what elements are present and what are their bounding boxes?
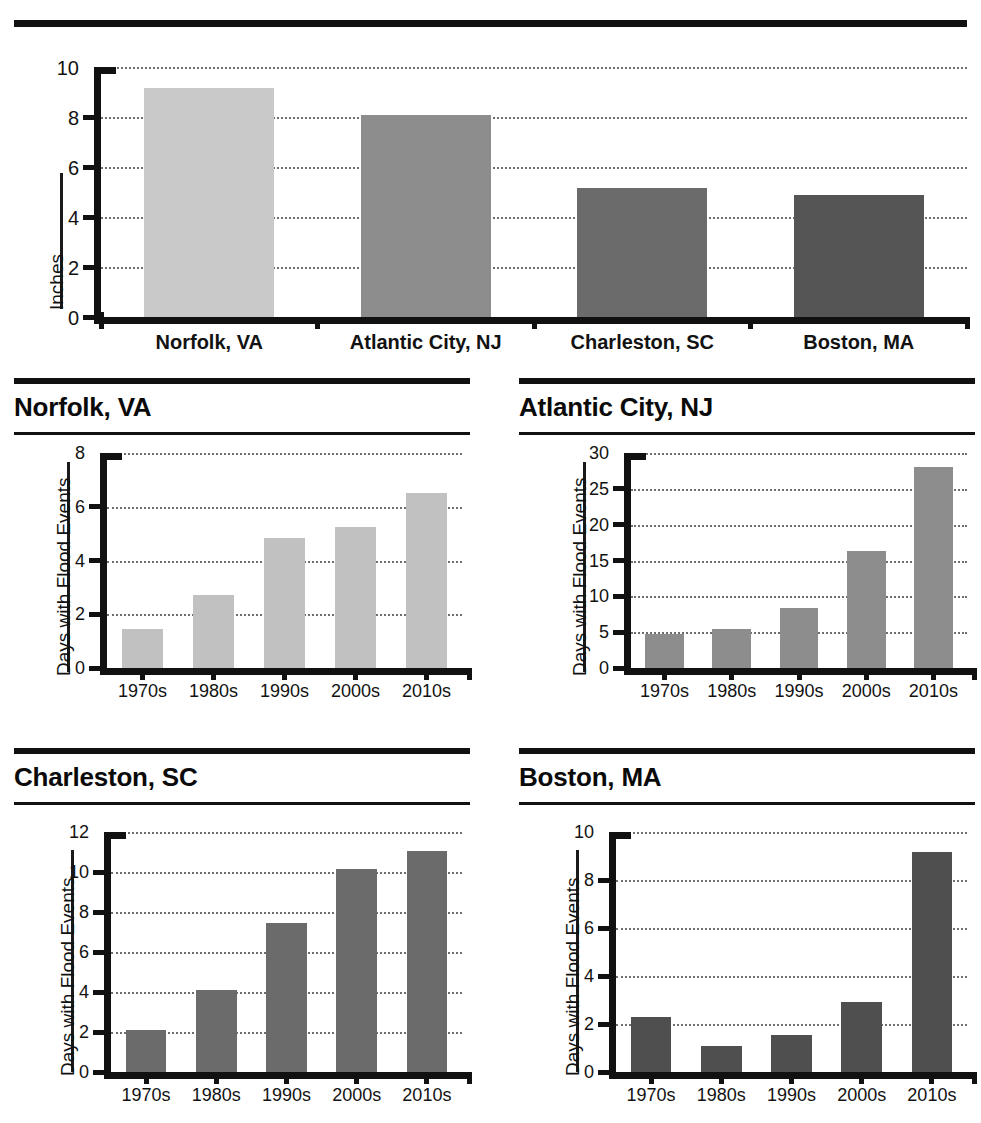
y-axis-tick-label: 4 bbox=[560, 967, 594, 985]
bar bbox=[577, 188, 707, 317]
y-axis-tick-label: 8 bbox=[55, 903, 89, 921]
x-axis-tick bbox=[929, 1072, 934, 1084]
norfolk-bar-chart: Days with Flood Events 024681970s1980s19… bbox=[14, 440, 474, 723]
y-axis-spine bbox=[94, 67, 101, 324]
x-axis-tick bbox=[797, 668, 802, 680]
x-axis-category-label: 1990s bbox=[251, 1086, 321, 1104]
x-axis-tick bbox=[864, 668, 869, 680]
x-axis-tick bbox=[748, 317, 753, 329]
y-axis-tick-label: 20 bbox=[575, 516, 609, 534]
panel-rule-bottom bbox=[14, 802, 470, 805]
x-axis-category-label: 2010s bbox=[391, 682, 462, 700]
y-axis-tick bbox=[93, 1030, 106, 1035]
y-axis-top-cap bbox=[100, 453, 122, 460]
y-axis-tick-label: 8 bbox=[51, 444, 85, 462]
charleston-plot-area bbox=[111, 832, 462, 1072]
panel-boston: Boston, MA Days with Flood Events 024681… bbox=[519, 748, 979, 1116]
x-axis-category-label: 2000s bbox=[827, 1086, 897, 1104]
y-axis-top-cap bbox=[609, 832, 631, 839]
y-axis-tick bbox=[598, 878, 611, 883]
panel-rule-top bbox=[519, 748, 975, 754]
y-axis-tick-label: 12 bbox=[55, 823, 89, 841]
y-axis-tick-label: 0 bbox=[560, 1063, 594, 1081]
x-axis-tick bbox=[214, 1072, 219, 1084]
y-axis-tick-label: 10 bbox=[560, 823, 594, 841]
x-axis-category-label: 1990s bbox=[756, 1086, 826, 1104]
x-axis-category-label: 2000s bbox=[322, 1086, 392, 1104]
y-axis-tick-label: 25 bbox=[575, 480, 609, 498]
x-axis-category-label: Boston, MA bbox=[751, 332, 968, 352]
y-axis-tick-label: 10 bbox=[575, 587, 609, 605]
atlantic-bars bbox=[631, 453, 967, 668]
y-axis-tick bbox=[613, 522, 626, 527]
y-axis-tick-label: 6 bbox=[560, 919, 594, 937]
charleston-bars bbox=[111, 832, 462, 1072]
bar bbox=[847, 551, 886, 668]
panel-title-atlantic-city: Atlantic City, NJ bbox=[519, 392, 713, 423]
panel-rule-top bbox=[14, 748, 470, 754]
atlantic-y-axis-title: Days with Flood Events bbox=[569, 477, 591, 676]
y-axis-tick bbox=[598, 926, 611, 931]
x-axis-category-label: 1990s bbox=[765, 682, 832, 700]
summary-bar-chart: Inches 0246810Norfolk, VAAtlantic City, … bbox=[0, 48, 981, 348]
figure-page: Inches 0246810Norfolk, VAAtlantic City, … bbox=[0, 0, 981, 1123]
y-axis-top-cap bbox=[624, 453, 646, 460]
panel-title-charleston: Charleston, SC bbox=[14, 762, 198, 793]
bar bbox=[771, 1035, 812, 1072]
y-axis-tick-label: 6 bbox=[51, 498, 85, 516]
bar bbox=[631, 1017, 672, 1072]
y-axis-tick bbox=[93, 990, 106, 995]
x-axis-category-label: 1980s bbox=[181, 1086, 251, 1104]
y-axis-tick bbox=[89, 504, 102, 509]
x-axis-tick bbox=[140, 668, 145, 680]
y-axis-tick-label: 30 bbox=[575, 444, 609, 462]
bar bbox=[912, 852, 953, 1072]
norfolk-plot-area bbox=[107, 453, 462, 668]
x-axis-category-label: 2010s bbox=[897, 1086, 967, 1104]
x-axis-tick bbox=[532, 317, 537, 329]
atlantic-bar-chart: Days with Flood Events 0510152025301970s… bbox=[519, 440, 979, 723]
x-axis-category-label: 2010s bbox=[900, 682, 967, 700]
x-axis-tick bbox=[353, 668, 358, 680]
y-axis-top-cap bbox=[104, 832, 126, 839]
y-axis-tick-label: 15 bbox=[575, 552, 609, 570]
y-axis-tick bbox=[613, 630, 626, 635]
y-axis-tick-label: 0 bbox=[51, 659, 85, 677]
x-axis-category-label: Charleston, SC bbox=[534, 332, 751, 352]
bar bbox=[335, 527, 376, 668]
panel-rule-bottom bbox=[519, 432, 975, 435]
bar bbox=[196, 990, 237, 1072]
y-axis-tick-label: 2 bbox=[55, 1023, 89, 1041]
boston-bars bbox=[616, 832, 967, 1072]
y-axis-top-cap bbox=[94, 67, 116, 74]
y-axis-tick bbox=[598, 974, 611, 979]
panel-rule-bottom bbox=[519, 802, 975, 805]
y-axis-tick-label: 0 bbox=[55, 1063, 89, 1081]
bar bbox=[361, 115, 491, 318]
y-axis-tick-label: 2 bbox=[560, 1015, 594, 1033]
x-axis-tick bbox=[354, 1072, 359, 1084]
x-axis-tick bbox=[424, 668, 429, 680]
y-axis-tick bbox=[83, 215, 96, 220]
y-axis-tick bbox=[613, 486, 626, 491]
x-axis-tick bbox=[789, 1072, 794, 1084]
x-axis-end-tick bbox=[467, 668, 472, 680]
bar bbox=[122, 629, 163, 668]
y-axis-tick-label: 6 bbox=[41, 158, 79, 178]
x-axis-category-label: 1970s bbox=[107, 682, 178, 700]
panel-rule-top bbox=[519, 378, 975, 384]
x-axis-category-label: 2000s bbox=[320, 682, 391, 700]
panel-title-norfolk: Norfolk, VA bbox=[14, 392, 151, 423]
panel-rule-bottom bbox=[14, 432, 470, 435]
y-axis-tick bbox=[83, 265, 96, 270]
x-axis-line bbox=[94, 317, 967, 324]
y-axis-tick bbox=[93, 910, 106, 915]
x-axis-end-tick bbox=[972, 668, 977, 680]
y-axis-tick bbox=[83, 165, 96, 170]
bar bbox=[193, 595, 234, 668]
bar bbox=[841, 1002, 882, 1072]
y-axis-tick-label: 4 bbox=[51, 552, 85, 570]
x-axis-category-label: Atlantic City, NJ bbox=[318, 332, 535, 352]
x-axis-category-label: 1980s bbox=[178, 682, 249, 700]
summary-plot-area bbox=[101, 67, 967, 317]
